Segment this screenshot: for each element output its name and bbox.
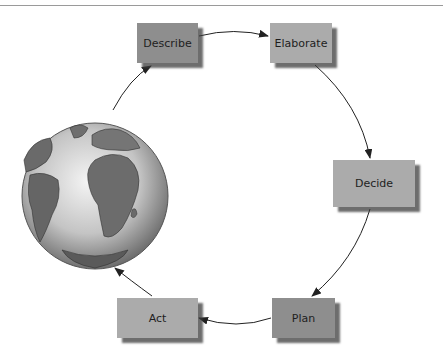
arrow-decide-plan — [312, 209, 370, 296]
arrow-globe-describe — [113, 66, 151, 110]
node-act: Act — [117, 298, 198, 338]
node-label: Describe — [143, 37, 191, 50]
node-label: Act — [149, 312, 167, 325]
node-describe: Describe — [137, 23, 198, 63]
node-label: Elaborate — [275, 37, 328, 50]
globe-icon — [22, 123, 168, 269]
arrow-describe-elaborate — [199, 32, 268, 37]
node-label: Plan — [292, 312, 315, 325]
arrow-plan-act — [199, 318, 271, 324]
node-decide: Decide — [333, 160, 415, 207]
arrow-elaborate-decide — [315, 65, 370, 158]
node-label: Decide — [355, 177, 393, 190]
node-elaborate: Elaborate — [270, 23, 332, 63]
node-plan: Plan — [272, 298, 335, 338]
arrow-act-globe — [115, 268, 152, 296]
